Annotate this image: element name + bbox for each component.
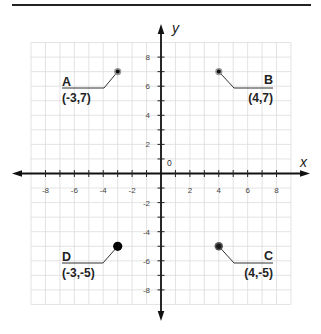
point-marker-b — [217, 70, 221, 74]
coordinate-plane: -8-6-4-224688642-2-4-6-8 x y 0 A (-3,7) … — [0, 0, 321, 334]
point-d-coords: (-3,-5) — [62, 266, 95, 280]
y-tick-label: 4 — [146, 111, 151, 120]
y-tick-label: -8 — [143, 286, 151, 295]
x-tick-label: 4 — [217, 186, 222, 195]
x-tick-label: 2 — [188, 186, 193, 195]
point-marker-a — [116, 70, 120, 74]
point-marker-c — [216, 244, 221, 249]
x-axis-label: x — [299, 154, 308, 170]
x-tick-label: -8 — [42, 186, 50, 195]
point-b-coords: (4,7) — [248, 91, 273, 105]
x-tick-label: -2 — [129, 186, 137, 195]
x-tick-label: 8 — [274, 186, 279, 195]
y-tick-label: 8 — [146, 53, 151, 62]
x-tick-label: -4 — [100, 186, 108, 195]
y-tick-label: -6 — [143, 257, 151, 266]
y-axis-label: y — [171, 20, 180, 36]
origin-label: 0 — [167, 158, 172, 168]
y-tick-label: -4 — [143, 228, 151, 237]
x-tick-label: 6 — [245, 186, 250, 195]
point-a-name: A — [62, 75, 71, 89]
point-b-name: B — [264, 73, 273, 87]
point-c-coords: (4,-5) — [244, 266, 273, 280]
point-d-name: D — [62, 250, 71, 264]
x-tick-label: -6 — [71, 186, 79, 195]
y-tick-label: 2 — [146, 140, 151, 149]
point-a-coords: (-3,7) — [62, 91, 91, 105]
y-tick-label: 6 — [146, 82, 151, 91]
point-marker-d — [113, 242, 122, 251]
point-c-name: C — [264, 249, 273, 263]
y-tick-label: -2 — [143, 199, 151, 208]
